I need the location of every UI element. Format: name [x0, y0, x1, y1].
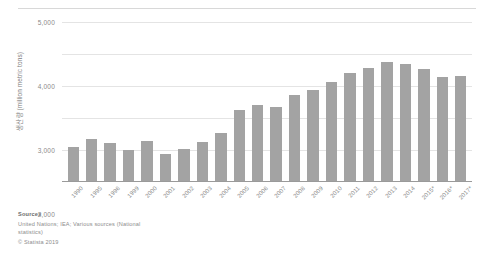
x-label-slot: 2006 — [249, 184, 267, 218]
bar[interactable] — [252, 105, 263, 182]
sources-block: Sources United Nations; IEA; Various sou… — [18, 210, 218, 247]
bar[interactable] — [455, 76, 466, 182]
plot-area: 01,0002,0003,0004,0005,000 — [62, 22, 472, 182]
bar-slot — [64, 22, 82, 182]
x-label-slot: 2014 — [396, 184, 414, 218]
bar-slot — [119, 22, 137, 182]
bar[interactable] — [178, 149, 189, 182]
bar[interactable] — [270, 107, 281, 182]
chart-container: 생산량 (million metric tons) 01,0002,0003,0… — [0, 0, 484, 256]
bar-slot — [304, 22, 322, 182]
bar-slot — [452, 22, 470, 182]
bar[interactable] — [400, 64, 411, 182]
x-label-slot: 2005 — [230, 184, 248, 218]
sources-heading: Sources — [18, 210, 218, 219]
bar-series — [62, 22, 472, 182]
x-label-slot: 2011 — [341, 184, 359, 218]
x-label-slot: 2010 — [322, 184, 340, 218]
bar[interactable] — [418, 69, 429, 182]
y-tick-label: 4,000 — [38, 83, 55, 90]
x-label-slot: 2015* — [415, 184, 433, 218]
bar-slot — [82, 22, 100, 182]
bar-slot — [230, 22, 248, 182]
bar[interactable] — [289, 95, 300, 182]
bar-slot — [378, 22, 396, 182]
bar-slot — [359, 22, 377, 182]
bar[interactable] — [197, 142, 208, 182]
bar-slot — [267, 22, 285, 182]
bar[interactable] — [104, 143, 115, 182]
y-tick-label: 3,000 — [38, 147, 55, 154]
x-label-slot: 2007 — [267, 184, 285, 218]
y-axis-title: 생산량 (million metric tons) — [14, 52, 24, 131]
bar[interactable] — [215, 133, 226, 182]
gridline-0: 0 — [62, 182, 472, 183]
x-label-slot: 2008 — [285, 184, 303, 218]
x-label-slot: 2017* — [452, 184, 470, 218]
bar-slot — [322, 22, 340, 182]
top-divider — [18, 8, 476, 9]
bar[interactable] — [234, 110, 245, 182]
bar[interactable] — [437, 77, 448, 182]
bar-slot — [193, 22, 211, 182]
bar[interactable] — [344, 73, 355, 182]
bar[interactable] — [160, 154, 171, 182]
copyright-notice: © Statista 2019 — [18, 238, 218, 247]
x-label-slot: 2009 — [304, 184, 322, 218]
bar[interactable] — [68, 147, 79, 182]
bar[interactable] — [86, 139, 97, 182]
bar[interactable] — [307, 90, 318, 182]
x-label-slot: 2012 — [359, 184, 377, 218]
bar[interactable] — [381, 62, 392, 182]
bar-slot — [285, 22, 303, 182]
bar-slot — [433, 22, 451, 182]
bar-slot — [101, 22, 119, 182]
x-label-slot: 2016* — [433, 184, 451, 218]
bar-slot — [415, 22, 433, 182]
bar[interactable] — [326, 82, 337, 182]
bar-slot — [138, 22, 156, 182]
x-tick-label: 2017* — [457, 185, 473, 201]
bar-slot — [175, 22, 193, 182]
bar-slot — [212, 22, 230, 182]
bar[interactable] — [141, 141, 152, 182]
x-axis-line — [62, 181, 472, 183]
bar[interactable] — [363, 68, 374, 182]
sources-line-2: statistics) — [18, 228, 218, 237]
sources-line-1: United Nations; IEA; Various sources (Na… — [18, 220, 218, 229]
bar-slot — [249, 22, 267, 182]
y-tick-label: 5,000 — [38, 19, 55, 26]
x-label-slot: 2013 — [378, 184, 396, 218]
bar-slot — [156, 22, 174, 182]
bar[interactable] — [123, 150, 134, 182]
bar-slot — [341, 22, 359, 182]
bar-slot — [396, 22, 414, 182]
